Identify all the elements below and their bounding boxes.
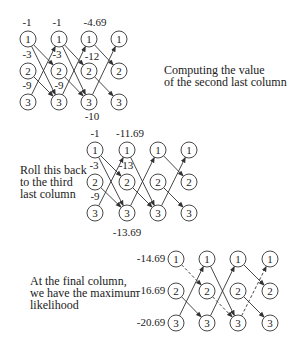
state-node: 2: [262, 283, 278, 299]
state-label: 3: [173, 317, 179, 329]
state-label: 2: [86, 65, 92, 77]
state-label: 1: [267, 253, 273, 265]
state-node: 3: [150, 205, 166, 221]
state-node: 3: [51, 94, 67, 110]
state-label: 1: [25, 33, 31, 45]
state-label: 3: [186, 207, 192, 219]
state-label: 3: [204, 317, 210, 329]
state-node: 3: [119, 205, 135, 221]
state-node: 2: [230, 283, 246, 299]
state-node: 2: [111, 63, 127, 79]
score-value: -10: [85, 110, 100, 122]
state-node: 2: [199, 283, 215, 299]
state-label: 2: [204, 285, 210, 297]
state-node: 3: [199, 315, 215, 331]
transition-arrow-dashed: [213, 297, 233, 318]
state-label: 1: [92, 144, 98, 156]
caption-final: At the final column, we have the maximum…: [30, 275, 139, 311]
state-label: 3: [235, 317, 241, 329]
state-label: 2: [124, 176, 130, 188]
state-node: 3: [111, 94, 127, 110]
state-node: 2: [119, 174, 135, 190]
transition-arrow-dashed: [182, 265, 202, 286]
state-node: 1: [51, 31, 67, 47]
state-label: 3: [56, 96, 62, 108]
score-value: -20.69: [137, 316, 166, 328]
score-value: -11.69: [116, 127, 145, 139]
transition-arrow-solid: [182, 297, 202, 318]
state-node: 1: [262, 251, 278, 267]
score-value: -9: [90, 190, 100, 202]
transition-arrow-solid: [95, 77, 114, 97]
state-label: 1: [186, 144, 192, 156]
score-value: -1: [90, 127, 99, 139]
state-node: 1: [87, 142, 103, 158]
trellis-1: 123123123123-1-3-9-1-3-9-4.69-12-10: [20, 16, 127, 122]
state-node: 3: [168, 315, 184, 331]
caption-rollback: Roll this back to the third last column: [20, 164, 87, 200]
state-node: 1: [230, 251, 246, 267]
score-value: -13.69: [113, 226, 142, 238]
state-label: 2: [186, 176, 192, 188]
state-label: 1: [155, 144, 161, 156]
state-label: 2: [25, 65, 31, 77]
state-label: 3: [116, 96, 122, 108]
state-node: 1: [119, 142, 135, 158]
score-value: -3: [89, 159, 99, 171]
state-node: 1: [81, 31, 97, 47]
state-node: 2: [181, 174, 197, 190]
transition-arrow-solid: [244, 265, 265, 286]
state-node: 2: [87, 174, 103, 190]
state-label: 1: [204, 253, 210, 265]
score-value: -3: [22, 48, 32, 60]
state-node: 1: [168, 251, 184, 267]
state-label: 2: [173, 285, 179, 297]
score-value: -4.69: [84, 16, 107, 28]
state-label: 1: [124, 144, 130, 156]
score-value: -12: [85, 50, 100, 62]
state-label: 2: [235, 285, 241, 297]
state-label: 2: [92, 176, 98, 188]
state-node: 1: [111, 31, 127, 47]
transition-arrow-solid: [133, 188, 153, 208]
transition-arrow-solid: [64, 45, 83, 65]
score-value: -3: [52, 48, 62, 60]
trellis-2: 123123123123-1-3-9-11.69-13-13.69: [87, 127, 197, 238]
state-node: 2: [81, 63, 97, 79]
state-node: 2: [51, 63, 67, 79]
transition-arrow-solid: [244, 297, 265, 318]
state-node: 3: [81, 94, 97, 110]
state-label: 3: [267, 317, 273, 329]
score-value: -1: [22, 16, 31, 28]
score-value: -1: [52, 16, 61, 28]
transition-arrow-solid: [34, 45, 54, 66]
state-node: 2: [20, 63, 36, 79]
state-label: 2: [116, 65, 122, 77]
state-node: 3: [20, 94, 36, 110]
state-node: 1: [181, 142, 197, 158]
state-label: 1: [173, 253, 179, 265]
state-label: 1: [86, 33, 92, 45]
state-node: 3: [87, 205, 103, 221]
score-value: -14.69: [137, 252, 166, 264]
state-label: 2: [267, 285, 273, 297]
state-label: 2: [56, 65, 62, 77]
score-value: -16.69: [137, 284, 166, 296]
state-label: 3: [25, 96, 31, 108]
state-label: 3: [86, 96, 92, 108]
state-node: 2: [168, 283, 184, 299]
trellis-3: 123123123123-14.69-16.69-20.69: [137, 251, 278, 331]
state-label: 1: [116, 33, 122, 45]
state-label: 3: [124, 207, 130, 219]
state-label: 1: [56, 33, 62, 45]
score-value: -13: [119, 159, 134, 171]
state-label: 2: [155, 176, 161, 188]
transition-arrow-solid: [65, 77, 84, 97]
state-node: 1: [199, 251, 215, 267]
transition-arrow-solid: [164, 188, 184, 208]
state-node: 2: [150, 174, 166, 190]
transition-arrow-solid: [101, 188, 122, 208]
state-node: 1: [150, 142, 166, 158]
state-node: 3: [262, 315, 278, 331]
state-label: 3: [155, 207, 161, 219]
